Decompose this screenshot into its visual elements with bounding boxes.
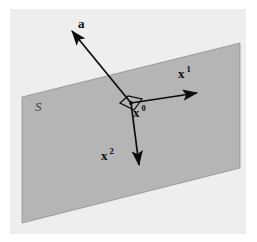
- origin-superscript: 0: [142, 103, 146, 113]
- vector-x2-superscript: 2: [110, 146, 114, 156]
- vector-plane-diagram: S a x 1 x 2 x 0: [0, 0, 257, 242]
- vector-a-label: a: [78, 16, 85, 31]
- origin-label: x: [133, 105, 140, 120]
- vector-x1-superscript: 1: [187, 64, 191, 74]
- figure-container: S a x 1 x 2 x 0: [0, 0, 257, 242]
- vector-x2-label: x: [101, 148, 108, 163]
- surface-label-s: S: [35, 99, 42, 114]
- vector-x1-label: x: [178, 66, 185, 81]
